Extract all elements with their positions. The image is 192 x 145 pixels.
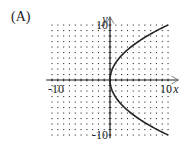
y-tick-label-min: -10 xyxy=(92,128,108,142)
y-axis-label: y xyxy=(101,12,108,26)
x-tick-label-max: 10 xyxy=(160,82,172,96)
x-tick-label-min: -10 xyxy=(48,82,64,96)
x-axis-label: x xyxy=(172,82,179,96)
graph: -101010-10xy xyxy=(0,0,192,145)
